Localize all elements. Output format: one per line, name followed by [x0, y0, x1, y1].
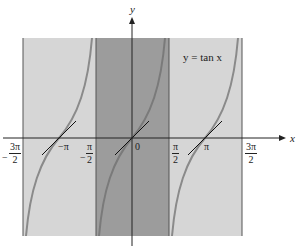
tick-label-neg-3pi2: 3π 2	[9, 142, 21, 165]
frac-den: 2	[9, 154, 21, 165]
tick-label-neg-pi2: π 2	[86, 142, 93, 165]
frac-num: π	[172, 142, 179, 154]
x-axis-arrow-icon	[279, 135, 286, 141]
frac-num: 3π	[9, 142, 21, 154]
tick-label-pi: π	[204, 142, 209, 152]
tan-chart	[0, 0, 301, 249]
minus-sign-3pi2: −	[2, 153, 8, 163]
frac-den: 2	[172, 154, 179, 165]
tick-label-3pi2: 3π 2	[245, 142, 257, 165]
minus-sign-pi2: −	[80, 153, 86, 163]
tick-label-pi2: π 2	[172, 142, 179, 165]
tick-label-neg-pi: −π	[58, 142, 69, 152]
y-axis-arrow-icon	[129, 17, 135, 24]
chart-title: y = tan x	[183, 52, 222, 63]
frac-num: π	[86, 142, 93, 154]
x-axis-label: x	[290, 133, 295, 144]
frac-den: 2	[86, 154, 93, 165]
tick-label-zero: 0	[135, 142, 140, 152]
frac-num: 3π	[245, 142, 257, 154]
y-axis-label: y	[130, 4, 135, 15]
frac-den: 2	[245, 154, 257, 165]
